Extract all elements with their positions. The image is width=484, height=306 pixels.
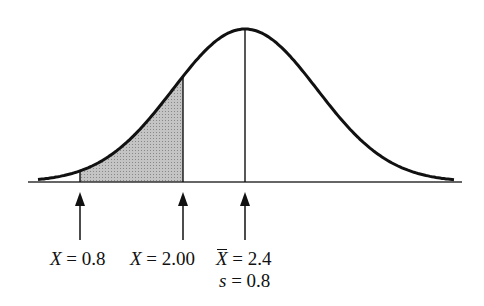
shaded-area (80, 76, 183, 182)
arrow-x-2-00 (178, 192, 188, 240)
value: = 2.00 (142, 248, 195, 269)
var-x: X (50, 248, 62, 269)
arrow-x-0-8 (75, 192, 85, 240)
value: = 2.4 (228, 248, 272, 269)
label-x-0-8: X = 0.8 (50, 248, 106, 270)
label-sd: s = 0.8 (219, 270, 270, 292)
arrow-mean (240, 192, 250, 240)
value: = 0.8 (226, 270, 270, 291)
label-mean: X = 2.4 (216, 248, 272, 270)
label-x-2-00: X = 2.00 (130, 248, 195, 270)
bell-curve (38, 29, 454, 180)
var-x: X (130, 248, 142, 269)
value: = 0.8 (62, 248, 106, 269)
var-x-bar: X (216, 248, 228, 270)
